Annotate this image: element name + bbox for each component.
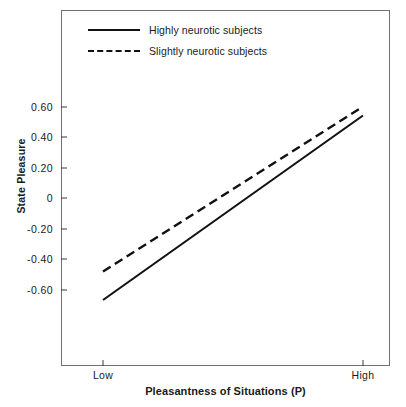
- chart-figure: 0.60 0.40 0.20 0 -0.20 -0.40 -0.60 Low H…: [0, 0, 406, 407]
- y-tick-label-5: -0.40: [8, 253, 53, 265]
- x-tick-label-low: Low: [73, 369, 133, 381]
- legend-label-highly-neurotic: Highly neurotic subjects: [149, 24, 262, 36]
- plot-area-frame: [61, 10, 390, 366]
- legend-swatch-solid-line-icon: [88, 25, 140, 35]
- legend-item-highly-neurotic: Highly neurotic subjects: [88, 19, 318, 40]
- legend-swatch-dashed-line-icon: [88, 46, 140, 56]
- chart-legend: Highly neurotic subjects Slightly neurot…: [88, 19, 318, 61]
- legend-item-slightly-neurotic: Slightly neurotic subjects: [88, 40, 318, 61]
- legend-label-slightly-neurotic: Slightly neurotic subjects: [149, 45, 267, 57]
- x-axis-title-symbol: P: [295, 385, 302, 397]
- y-tick-label-6: -0.60: [8, 284, 53, 296]
- y-tick-label-0: 0.60: [8, 101, 53, 113]
- x-tick-label-high: High: [333, 369, 393, 381]
- x-axis-title-suffix: ): [302, 385, 306, 397]
- x-axis-title-prefix: Pleasantness of Situations (: [145, 385, 295, 397]
- y-axis-title: State Pleasure: [15, 116, 27, 236]
- x-axis-title: Pleasantness of Situations (P): [61, 385, 390, 397]
